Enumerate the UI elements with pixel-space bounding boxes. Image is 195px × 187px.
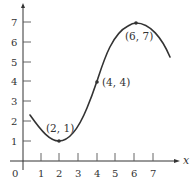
y-tick-label: 5 <box>11 57 17 68</box>
y-tick-label: 4 <box>11 76 17 87</box>
y-tick-label: 3 <box>11 96 17 107</box>
point-inflection <box>95 80 99 84</box>
y-tick-label: 2 <box>11 116 17 127</box>
y-ticks <box>23 22 31 141</box>
y-tick-label: 1 <box>11 136 17 147</box>
chart-container: 1 2 3 4 5 6 7 0 1 2 3 4 5 6 7 x (2, 1) (… <box>0 0 195 187</box>
point-maximum <box>134 21 138 25</box>
x-tick-label: 6 <box>131 168 137 179</box>
label-point-maximum: (6, 7) <box>125 30 153 42</box>
x-tick-label: 1 <box>38 168 44 179</box>
x-tick-label: 4 <box>94 168 100 179</box>
y-tick-label: 7 <box>11 17 17 28</box>
origin-label: 0 <box>12 168 18 179</box>
x-tick-label: 7 <box>150 168 156 179</box>
y-axis-arrow-icon <box>21 3 25 8</box>
point-minimum <box>57 139 61 143</box>
x-tick-label: 3 <box>75 168 81 179</box>
x-ticks <box>41 153 153 161</box>
x-axis-label: x <box>183 154 190 167</box>
label-point-minimum: (2, 1) <box>46 122 74 134</box>
x-axis-arrow-icon <box>174 159 180 163</box>
chart-svg: 1 2 3 4 5 6 7 0 1 2 3 4 5 6 7 x (2, 1) (… <box>0 0 195 187</box>
label-point-inflection: (4, 4) <box>102 76 130 88</box>
x-tick-label: 2 <box>56 168 62 179</box>
y-tick-labels: 1 2 3 4 5 6 7 <box>11 17 17 147</box>
x-tick-labels: 0 1 2 3 4 5 6 7 <box>12 168 156 179</box>
x-tick-label: 5 <box>112 168 118 179</box>
y-tick-label: 6 <box>11 37 17 48</box>
